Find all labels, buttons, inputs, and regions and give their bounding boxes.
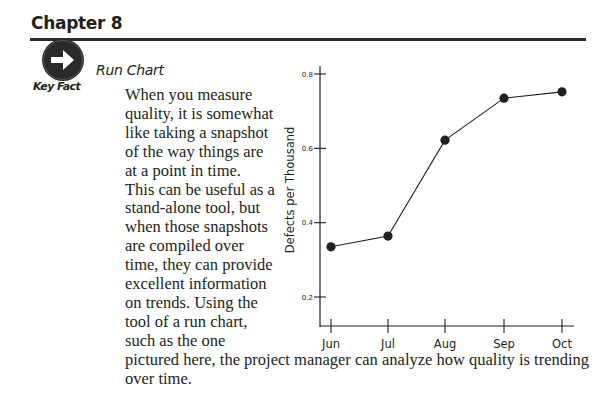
data-point — [557, 87, 566, 96]
y-tick-label: 0.6 — [302, 145, 314, 153]
x-tick-label: Aug — [434, 337, 456, 351]
x-tick-label: Sep — [493, 337, 515, 351]
y-ticks: 0.20.40.60.8 — [302, 71, 326, 302]
data-point — [440, 136, 449, 145]
y-tick-label: 0.2 — [302, 294, 313, 302]
series-line — [331, 92, 562, 247]
y-axis-label: Defects per Thousand — [283, 127, 297, 254]
data-point — [499, 94, 508, 103]
data-point — [326, 242, 335, 251]
x-tick-label: Oct — [552, 337, 572, 351]
x-ticks: JunJulAugSepOct — [321, 319, 572, 351]
y-tick-label: 0.8 — [302, 71, 313, 79]
run-chart: 0.20.40.60.8 JunJulAugSepOct Defects per… — [0, 0, 611, 393]
x-tick-label: Jun — [321, 337, 340, 351]
data-point — [383, 231, 392, 240]
x-tick-label: Jul — [380, 337, 395, 351]
y-tick-label: 0.4 — [302, 219, 314, 227]
series-markers — [326, 87, 566, 251]
